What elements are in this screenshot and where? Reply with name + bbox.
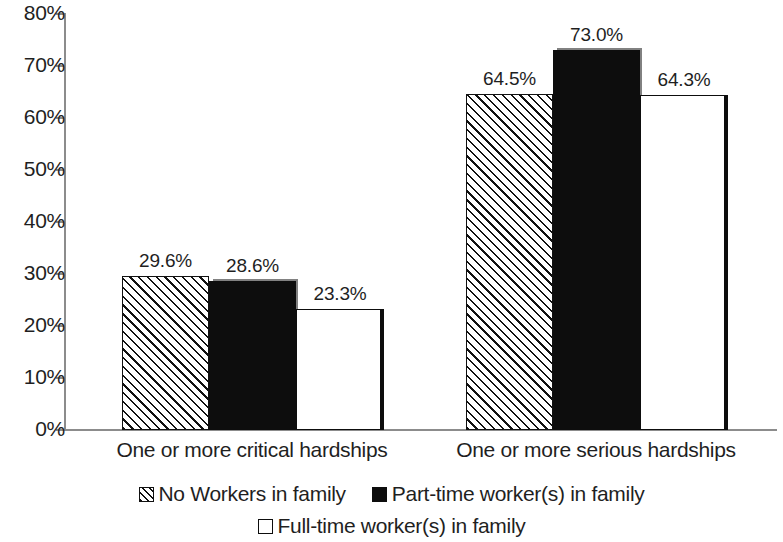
y-axis-tick-label: 50% [13, 158, 65, 179]
category-label-serious-hardships: One or more serious hardships [436, 438, 756, 462]
y-axis-tick-80: 80% [0, 13, 65, 15]
y-axis-tick-label: 20% [13, 314, 65, 335]
y-axis-tick-30: 30% [0, 273, 65, 275]
legend-row-top: No Workers in family Part-time worker(s)… [0, 483, 783, 505]
bar-value-label: 73.0% [553, 25, 640, 44]
bar-value-label: 28.6% [209, 256, 296, 275]
legend-item-full-time[interactable]: Full-time worker(s) in family [258, 515, 526, 537]
y-axis-tick-70: 70% [0, 65, 65, 67]
bar-serious-full-time[interactable] [640, 95, 728, 430]
y-axis-tick-0: 0% [0, 429, 65, 431]
legend-label: No Workers in family [159, 483, 346, 505]
bar-critical-no-workers[interactable] [122, 276, 209, 430]
bar-value-label: 23.3% [296, 284, 384, 303]
bar-value-label: 29.6% [122, 251, 209, 270]
bar-value-label: 64.5% [466, 69, 553, 88]
y-axis-tick-20: 20% [0, 325, 65, 327]
y-axis-tick-label: 60% [13, 106, 65, 127]
y-axis-tick-10: 10% [0, 377, 65, 379]
y-axis-tick-label: 70% [13, 54, 65, 75]
legend-swatch-hatched-icon [139, 487, 154, 502]
y-axis-tick-50: 50% [0, 169, 65, 171]
bar-serious-part-time[interactable] [553, 50, 640, 430]
y-axis-tick-label: 30% [13, 262, 65, 283]
legend-item-part-time[interactable]: Part-time worker(s) in family [372, 483, 645, 505]
plot-area: 29.6% 28.6% 23.3% 64.5% 73.0% 64.3% [66, 13, 777, 430]
legend-label: Part-time worker(s) in family [392, 483, 645, 505]
y-axis-tick-label: 10% [13, 366, 65, 387]
legend-swatch-solid-icon [372, 487, 387, 502]
y-axis-tick-label: 40% [13, 210, 65, 231]
bar-serious-no-workers[interactable] [466, 94, 553, 430]
category-label-critical-hardships: One or more critical hardships [92, 438, 412, 462]
bar-critical-part-time[interactable] [209, 281, 296, 430]
y-axis-tick-label: 80% [13, 2, 65, 23]
y-axis-tick-60: 60% [0, 117, 65, 119]
legend-swatch-open-icon [258, 519, 273, 534]
bar-value-label: 64.3% [640, 70, 728, 89]
bar-critical-full-time[interactable] [296, 309, 384, 430]
y-axis-tick-40: 40% [0, 221, 65, 223]
legend-label: Full-time worker(s) in family [278, 515, 526, 537]
legend-item-no-workers[interactable]: No Workers in family [139, 483, 346, 505]
legend-row-bottom: Full-time worker(s) in family [0, 515, 783, 537]
bar-chart: 80% 70% 60% 50% 40% 30% 20% 10% 0% 29.6%… [0, 0, 783, 542]
y-axis-tick-label: 0% [13, 418, 65, 439]
